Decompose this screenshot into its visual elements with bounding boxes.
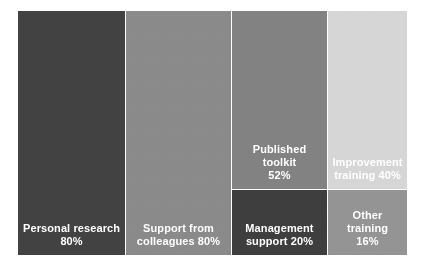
treemap-cell-label-other-training: Other training 16%	[328, 209, 407, 255]
label-line-2: colleagues 80%	[137, 235, 220, 247]
treemap-column-1: Personal research 80%	[18, 11, 126, 255]
treemap-cell-label-support-from-colleagues: Support from colleagues 80%	[126, 222, 231, 255]
treemap-cell-other-training[interactable]: Other training 16%	[328, 190, 407, 255]
texture-overlay	[18, 11, 125, 255]
treemap-column-3: Published toolkit 52% Management support…	[232, 11, 328, 255]
treemap-column-4: Improvement training 40% Other training …	[328, 11, 407, 255]
treemap-cell-label-personal-research: Personal research 80%	[18, 222, 125, 255]
treemap-cell-support-from-colleagues[interactable]: Support from colleagues 80%	[126, 11, 231, 255]
label-line-2: 52%	[268, 169, 290, 181]
label-line-2: training 40%	[334, 169, 401, 181]
treemap-cell-label-management-support: Management support 20%	[232, 222, 327, 255]
label-line-2: support 20%	[246, 235, 313, 247]
label-line-2: 80%	[60, 235, 82, 247]
label-line-1: Improvement	[332, 156, 402, 168]
treemap-cell-personal-research[interactable]: Personal research 80%	[18, 11, 125, 255]
treemap-column-2: Support from colleagues 80%	[126, 11, 232, 255]
label-line-1: Published toolkit	[253, 143, 306, 168]
treemap-cell-label-improvement-training: Improvement training 40%	[328, 156, 407, 189]
label-line-2: 16%	[356, 235, 378, 247]
label-line-1: Personal research	[23, 222, 120, 234]
treemap-cell-published-toolkit[interactable]: Published toolkit 52%	[232, 11, 327, 190]
label-line-1: Support from	[143, 222, 214, 234]
label-line-1: Management	[245, 222, 313, 234]
treemap-cell-improvement-training[interactable]: Improvement training 40%	[328, 11, 407, 190]
treemap-plot-area: Personal research 80% Support from colle…	[18, 11, 407, 255]
label-line-1: Other training	[347, 209, 388, 234]
treemap-chart: Personal research 80% Support from colle…	[0, 0, 425, 270]
treemap-cell-label-published-toolkit: Published toolkit 52%	[232, 143, 327, 189]
texture-overlay	[126, 11, 231, 255]
treemap-cell-management-support[interactable]: Management support 20%	[232, 190, 327, 255]
